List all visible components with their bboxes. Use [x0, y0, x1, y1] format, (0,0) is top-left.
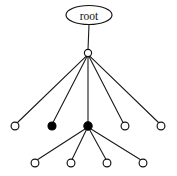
node-n3-4-open[interactable] [139, 159, 147, 167]
node-hub-open[interactable] [84, 49, 91, 56]
edge-n2-3-to-n3-3 [90, 130, 107, 160]
tree-diagram-canvas: root [0, 0, 177, 176]
edge-root-to-hub [88, 25, 89, 50]
node-n2-5-open[interactable] [157, 122, 165, 130]
edge-hub-to-n2-4 [89, 57, 123, 123]
node-n3-3-open[interactable] [103, 159, 111, 167]
node-n2-4-open[interactable] [121, 122, 129, 130]
node-n2-1-open[interactable] [11, 122, 19, 130]
node-n2-2-filled[interactable] [48, 122, 56, 130]
tree-diagram-svg: root [0, 0, 177, 176]
root-label: root [80, 10, 99, 22]
edge-hub-to-n2-1 [17, 56, 86, 123]
root-node-group[interactable]: root [66, 6, 112, 25]
edge-n2-3-to-n3-1 [37, 129, 85, 160]
node-n2-3-filled[interactable] [84, 122, 92, 130]
node-n3-2-open[interactable] [67, 159, 75, 167]
edge-n2-3-to-n3-2 [72, 130, 87, 160]
edge-hub-to-n2-2 [53, 57, 87, 123]
edge-hub-to-n2-5 [90, 56, 159, 123]
edges-layer [17, 25, 159, 161]
node-n3-1-open[interactable] [31, 159, 39, 167]
edge-n2-3-to-n3-4 [91, 129, 141, 160]
